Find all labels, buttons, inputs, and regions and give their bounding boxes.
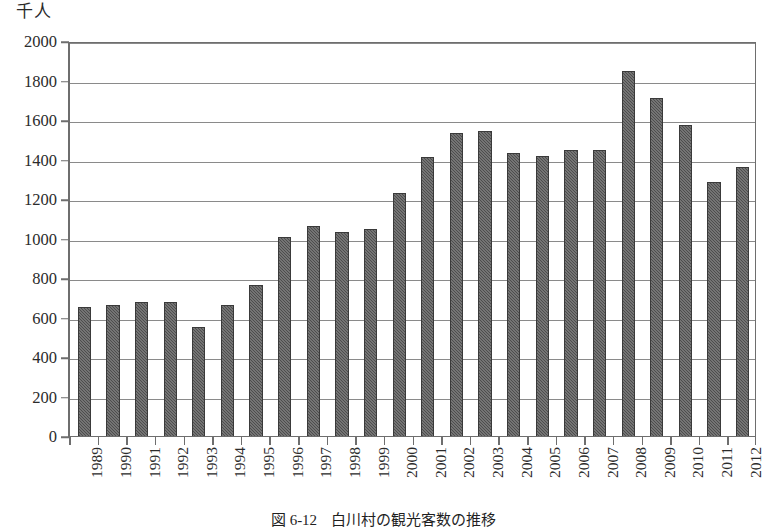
x-axis-tick-label: 1992 <box>175 447 191 478</box>
figure-container: 千人 0200400600800100012001400160018002000… <box>0 0 767 531</box>
x-axis-tick-label: 2002 <box>461 447 477 478</box>
x-axis-tick <box>69 437 71 445</box>
bar <box>364 229 377 436</box>
y-axis-tick-label: 400 <box>1 350 57 367</box>
x-axis-tick <box>727 437 729 445</box>
bar <box>421 157 434 436</box>
bar-series <box>70 43 755 436</box>
x-axis-tick <box>384 437 386 445</box>
x-axis-labels: 1989199019911992199319941995199619971998… <box>69 447 756 505</box>
bar <box>679 125 692 436</box>
x-axis-tick <box>556 437 558 445</box>
x-axis-tick-label: 2003 <box>490 447 506 478</box>
x-axis-tick <box>241 437 243 445</box>
x-axis-tick <box>184 437 186 445</box>
x-axis-tick <box>441 437 443 445</box>
x-axis-tick-label: 2009 <box>662 447 678 478</box>
x-axis-tick-label: 1990 <box>118 447 134 478</box>
y-axis-tick <box>61 41 69 43</box>
x-axis-tick <box>355 437 357 445</box>
x-axis-tick <box>298 437 300 445</box>
caption-number: 図 6-12 <box>271 512 317 528</box>
bar <box>249 285 262 436</box>
x-axis-tick <box>155 437 157 445</box>
x-axis-tick <box>699 437 701 445</box>
y-axis-tick <box>61 81 69 83</box>
x-axis-tick-label: 1989 <box>89 447 105 478</box>
x-axis-tick-label: 2011 <box>719 447 735 477</box>
y-axis-tick <box>61 239 69 241</box>
bar <box>450 133 463 436</box>
x-axis-tick-label: 2010 <box>690 447 706 478</box>
y-axis-tick <box>61 278 69 280</box>
x-axis-tick-label: 2012 <box>748 447 764 478</box>
x-axis-tick-label: 1994 <box>232 447 248 478</box>
x-axis-tick-label: 1991 <box>147 447 163 478</box>
y-axis-tick <box>61 357 69 359</box>
bar <box>707 182 720 436</box>
bar <box>622 71 635 436</box>
x-axis-tick-label: 2004 <box>519 447 535 478</box>
x-axis-tick <box>642 437 644 445</box>
bar <box>278 237 291 436</box>
x-axis-tick-label: 2000 <box>404 447 420 478</box>
y-axis-tick-label: 0 <box>1 429 57 446</box>
x-axis-tick-label: 1995 <box>261 447 277 478</box>
y-axis-tick-label: 1400 <box>1 152 57 169</box>
x-axis-tick-label: 2008 <box>633 447 649 478</box>
x-axis-tick-label: 1996 <box>290 447 306 478</box>
y-axis-tick <box>61 160 69 162</box>
x-axis-tick <box>98 437 100 445</box>
x-axis-tick <box>126 437 128 445</box>
x-axis-tick-label: 1999 <box>376 447 392 478</box>
x-axis-tick <box>269 437 271 445</box>
x-axis-tick <box>670 437 672 445</box>
bar <box>192 327 205 436</box>
x-axis-tick-label: 1993 <box>204 447 220 478</box>
x-axis-tick <box>212 437 214 445</box>
y-axis-tick <box>61 318 69 320</box>
y-axis-tick <box>61 436 69 438</box>
bar <box>164 302 177 436</box>
y-axis-tick-label: 2000 <box>1 34 57 51</box>
x-axis-tick-label: 1997 <box>318 447 334 478</box>
x-axis-ticks <box>69 437 756 445</box>
bar <box>650 98 663 436</box>
y-axis-tick-label: 1800 <box>1 73 57 90</box>
y-axis-tick-label: 200 <box>1 389 57 406</box>
x-axis-tick-label: 2007 <box>605 447 621 478</box>
x-axis-tick <box>613 437 615 445</box>
y-axis: 0200400600800100012001400160018002000 <box>0 42 69 437</box>
x-axis-tick <box>755 437 757 445</box>
y-axis-tick-label: 600 <box>1 310 57 327</box>
bar <box>478 131 491 436</box>
bar <box>335 232 348 436</box>
y-axis-unit-label: 千人 <box>16 0 52 24</box>
y-axis-tick-label: 1000 <box>1 231 57 248</box>
x-axis-tick-label: 2006 <box>576 447 592 478</box>
bar <box>221 305 234 436</box>
y-axis-tick <box>61 120 69 122</box>
plot-area <box>69 42 756 437</box>
bar <box>507 153 520 436</box>
bar <box>593 150 606 436</box>
y-axis-tick <box>61 199 69 201</box>
x-axis-tick-label: 1998 <box>347 447 363 478</box>
bar <box>135 302 148 436</box>
x-axis-tick <box>470 437 472 445</box>
figure-caption: 図 6-12白川村の観光客数の推移 <box>0 509 767 531</box>
y-axis-tick-label: 1200 <box>1 192 57 209</box>
x-axis-tick <box>498 437 500 445</box>
x-axis-tick-label: 2001 <box>433 447 449 478</box>
bar <box>106 305 119 436</box>
x-axis-tick <box>413 437 415 445</box>
bar <box>393 193 406 436</box>
y-axis-tick-label: 1600 <box>1 113 57 130</box>
y-axis-tick-label: 800 <box>1 271 57 288</box>
x-axis-tick <box>327 437 329 445</box>
caption-title: 白川村の観光客数の推移 <box>331 512 496 528</box>
x-axis-tick <box>584 437 586 445</box>
x-axis-tick-label: 2005 <box>547 447 563 478</box>
x-axis-tick <box>527 437 529 445</box>
bar <box>536 156 549 436</box>
